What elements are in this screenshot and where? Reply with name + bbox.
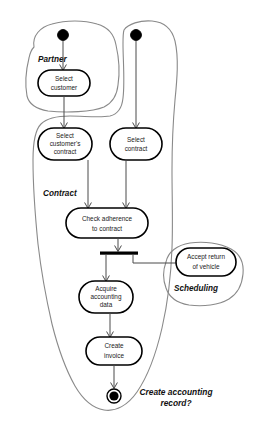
end-node-label-line2: record? — [160, 398, 191, 408]
action-label-select-contract-line2: contract — [125, 145, 148, 152]
uml-activity-diagram: Partner Contract Scheduling Select custo… — [0, 0, 254, 431]
end-node-dot — [109, 391, 118, 400]
region-label-contract: Contract — [43, 189, 77, 198]
action-node-select-customer[interactable] — [38, 70, 90, 96]
activity-diagram-canvas: Partner Contract Scheduling Select custo… — [0, 0, 254, 431]
action-label-customers-contract-line2: customer's — [50, 140, 81, 147]
action-label-customers-contract-line3: contract — [54, 148, 77, 155]
action-label-accept-return-line1: Accept return — [187, 253, 225, 261]
start-node-partner — [58, 30, 69, 41]
action-label-customers-contract-line1: Select — [56, 132, 74, 139]
region-outline-partner — [26, 21, 119, 112]
action-label-check-adherence-line2: to contract — [92, 225, 122, 232]
action-label-check-adherence-line1: Check adherence — [82, 215, 133, 222]
end-node-label-line1: Create accounting — [139, 387, 212, 397]
action-label-acquire-line1: Acquire — [95, 285, 117, 293]
action-label-accept-return-line2: of vehicle — [193, 263, 220, 270]
region-label-scheduling: Scheduling — [174, 284, 218, 293]
action-label-create-invoice-line2: invoice — [104, 352, 124, 359]
action-label-select-customer-line1: Select — [55, 75, 73, 82]
action-label-acquire-line3: data — [100, 301, 113, 308]
action-node-check-adherence[interactable] — [66, 208, 148, 238]
action-label-acquire-line2: accounting — [91, 293, 122, 301]
action-label-create-invoice-line1: Create — [104, 342, 124, 349]
action-label-select-contract-line1: Select — [127, 136, 145, 143]
start-node-contract — [131, 30, 142, 41]
action-label-select-customer-line2: customer — [51, 84, 78, 91]
fork-bar — [100, 252, 138, 255]
